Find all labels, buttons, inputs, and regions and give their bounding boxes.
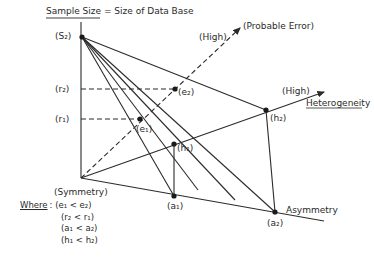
legend-condition: (a₁ < a₂) [20, 223, 98, 235]
label-h2: (h₂) [270, 113, 286, 123]
asymmetry-label: Asymmetry [286, 205, 338, 215]
title-sample-size: Sample Size [46, 6, 101, 16]
probable-error-axis [81, 28, 240, 178]
legend-condition: (e₁ < e₂) [55, 200, 91, 210]
label-a1: (a₁) [167, 201, 183, 211]
legend-condition: (h₁ < h₂) [20, 235, 98, 247]
symmetry-label: (Symmetry) [54, 187, 108, 197]
heterogeneity-high-label: (High) [282, 86, 310, 96]
label-r1: (r₁) [55, 114, 69, 124]
point-s2 [79, 34, 84, 39]
legend-condition: (r₂ < r₁) [20, 212, 98, 224]
probable-error-label: (Probable Error) [243, 21, 314, 31]
diagram-title: Sample Size = Size of Data Base [46, 6, 194, 16]
point-e2 [172, 86, 177, 91]
line-s2-e2 [82, 37, 275, 212]
line-s2-e1 [82, 37, 235, 200]
label-s2: (S₂) [55, 31, 71, 41]
legend-heading: Where [20, 200, 48, 210]
label-r2: (r₂) [55, 84, 69, 94]
point-h1 [171, 141, 176, 146]
heterogeneity-label: Heterogeneity [306, 98, 370, 108]
point-h2 [263, 107, 268, 112]
label-e2: (e₂) [178, 87, 194, 97]
legend-row: Where: (e₁ < e₂) [20, 200, 98, 212]
probable-error-high-label: (High) [199, 32, 227, 42]
point-e1 [137, 116, 142, 121]
point-a2 [272, 209, 277, 214]
line-h2-a2 [266, 110, 275, 212]
label-a2: (a₂) [267, 218, 283, 228]
label-e1: (e₁) [136, 124, 152, 134]
line-s2-a1 [82, 37, 174, 196]
label-h1: (h₁) [177, 143, 193, 153]
point-a1 [171, 193, 176, 198]
title-rest: = Size of Data Base [101, 6, 193, 16]
legend-separator: : [50, 200, 53, 210]
legend: Where: (e₁ < e₂) (r₂ < r₁) (a₁ < a₂) (h₁… [20, 200, 98, 246]
